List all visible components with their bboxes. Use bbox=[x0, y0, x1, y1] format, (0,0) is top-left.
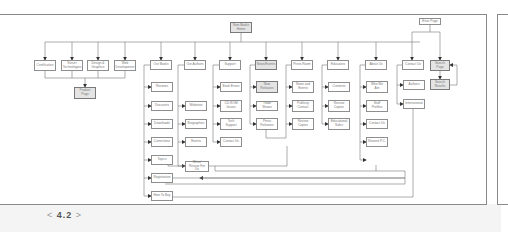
node-news-and-events: News and Events bbox=[292, 81, 314, 93]
node-search-page: Search Page bbox=[430, 60, 450, 71]
page-number-value: 4.2 bbox=[57, 210, 73, 220]
node-contents: Contents bbox=[328, 82, 350, 92]
prev-page-button[interactable]: < bbox=[47, 210, 53, 220]
node-search-results: Search Results bbox=[430, 79, 450, 90]
node-our-authors: Our Authors bbox=[184, 60, 206, 70]
node-press-releases: Press Releases bbox=[256, 118, 278, 130]
node-who-we-are: Who We Are bbox=[366, 81, 388, 93]
page-number: < 4.2 > bbox=[47, 210, 82, 220]
node-review-copies: Review Copies bbox=[292, 118, 314, 130]
node-press-room: Press Room bbox=[291, 60, 313, 70]
node-news-events: News/Events bbox=[255, 60, 277, 70]
node-events: Events bbox=[185, 137, 207, 147]
node-our-books: Our Books bbox=[150, 60, 172, 70]
node-product-page: Product Page bbox=[74, 87, 96, 99]
node-tech-support: Tech Support bbox=[220, 118, 242, 130]
node-about-contact-us: Contact Us bbox=[366, 119, 388, 129]
node-book-errors: Book Errors bbox=[220, 82, 242, 92]
node-trade-shows: Trade Shows bbox=[256, 101, 278, 111]
next-page-button[interactable]: > bbox=[76, 210, 82, 220]
node-staff-profiles: Staff Profiles bbox=[366, 100, 388, 112]
node-registration: Registration bbox=[151, 173, 173, 183]
node-cd-rom-issues: CD-ROM Issues bbox=[220, 100, 242, 112]
node-educators: Educators bbox=[327, 60, 349, 70]
node-publicity-contact: Publicity Contact bbox=[292, 100, 314, 112]
node-reviews: Reviews bbox=[151, 82, 173, 92]
node-about-us: About Us bbox=[365, 60, 387, 70]
node-contact-us: Contact Us bbox=[402, 60, 424, 70]
node-how-to-buy: How To Buy bbox=[151, 191, 173, 201]
node-support: Support bbox=[219, 60, 241, 70]
node-corrections: Corrections bbox=[151, 137, 173, 147]
node-home: New Books Home bbox=[230, 22, 252, 33]
node-educational-sales: Educational Sales bbox=[328, 118, 350, 130]
node-discounts: Discounts bbox=[151, 101, 173, 111]
node-international: International bbox=[403, 99, 425, 109]
node-error-page: Error Page bbox=[419, 18, 441, 25]
node-authors: Authors bbox=[403, 80, 425, 90]
node-certification: Certification bbox=[34, 60, 56, 71]
node-biographies: Biographies bbox=[185, 119, 207, 129]
node-server-technologies: Server Technologies bbox=[61, 60, 83, 71]
node-downloads: Downloads bbox=[151, 119, 173, 129]
node-educator-review-copies: Review Copies bbox=[328, 100, 350, 112]
node-design-graphics: Design & Graphics bbox=[87, 60, 109, 71]
node-topics: Topics bbox=[151, 155, 173, 165]
node-websites: Websites bbox=[185, 101, 207, 111]
node-new-releases: New Releases bbox=[256, 81, 278, 93]
node-web-development: Web Development bbox=[114, 60, 136, 71]
node-nearest-pc: Nearest P.C. bbox=[366, 137, 388, 147]
node-support-contact-us: Contact Us bbox=[220, 137, 242, 147]
node-write-review-for-us: Write/ Review For Us bbox=[185, 161, 209, 172]
